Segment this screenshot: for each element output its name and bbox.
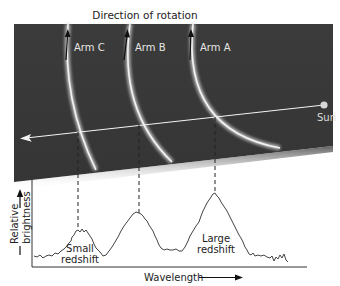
large-redshift-line1: Large bbox=[202, 233, 230, 244]
large-redshift-line2: redshift bbox=[197, 244, 235, 255]
arrow-right-icon bbox=[199, 275, 243, 281]
sun-icon bbox=[320, 101, 327, 108]
y-label-brightness: brightness bbox=[21, 191, 32, 244]
y-axis-label: Relative brightness bbox=[9, 189, 32, 255]
galaxy-rotation-diagram: Direction of rotation bbox=[0, 0, 340, 286]
sun-label: Sun bbox=[317, 112, 336, 123]
x-axis-label: Wavelength bbox=[144, 272, 203, 283]
arm-b-label: Arm B bbox=[135, 42, 166, 53]
galaxy-panel bbox=[14, 24, 333, 190]
small-redshift-line1: Small bbox=[66, 243, 94, 254]
arm-a-label: Arm A bbox=[200, 42, 231, 53]
arm-c-label: Arm C bbox=[74, 42, 105, 53]
small-redshift-line2: redshift bbox=[61, 254, 99, 265]
direction-of-rotation-label: Direction of rotation bbox=[92, 9, 197, 21]
y-label-relative: Relative bbox=[9, 204, 20, 244]
